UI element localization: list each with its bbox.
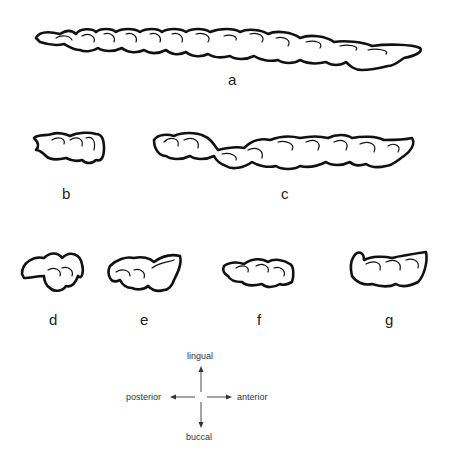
panel-f-drawing: [223, 259, 293, 287]
direction-posterior: posterior: [126, 393, 161, 402]
panel-e-label: e: [140, 311, 148, 328]
arrow-left-icon: [170, 395, 176, 400]
figure-canvas: a b c d e f g: [0, 0, 451, 461]
panel-a-label: a: [228, 71, 237, 88]
arrow-down-icon: [199, 422, 204, 428]
panel-g-label: g: [385, 311, 393, 328]
panel-b-label: b: [62, 185, 70, 202]
panel-d-label: d: [49, 311, 57, 328]
orientation-compass: [170, 366, 232, 428]
panel-a-drawing: [36, 29, 421, 70]
panel-c-drawing: [154, 133, 413, 169]
panel-g-drawing: [351, 252, 427, 286]
arrow-up-icon: [199, 366, 204, 372]
panel-b-drawing: [34, 133, 104, 163]
direction-lingual: lingual: [187, 352, 213, 361]
arrow-right-icon: [226, 395, 232, 400]
panel-f-label: f: [257, 311, 262, 328]
panel-c-label: c: [281, 185, 289, 202]
panel-d-drawing: [22, 254, 83, 291]
direction-buccal: buccal: [186, 433, 212, 442]
panel-e-drawing: [109, 255, 181, 291]
direction-anterior: anterior: [237, 393, 268, 402]
